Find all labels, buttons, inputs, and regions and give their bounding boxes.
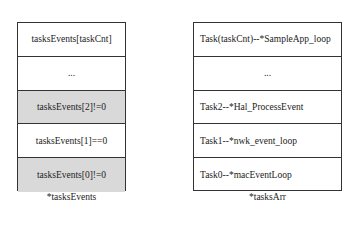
tasks-events-cell-taskcnt: tasksEvents[taskCnt]: [18, 23, 125, 57]
tasks-arr-caption: *tasksArr: [193, 192, 342, 202]
tasks-events-cell-1: tasksEvents[1]==0: [18, 124, 125, 158]
tasks-arr-cell-ellipsis: ...: [194, 57, 341, 91]
tasks-arr-cell-1: Task1--*nwk_event_loop: [194, 124, 341, 158]
tasks-arr-cell-taskcnt: Task(taskCnt)--*SampleApp_loop: [194, 23, 341, 57]
tasks-arr-array: Task(taskCnt)--*SampleApp_loop ... Task2…: [193, 22, 342, 191]
tasks-arr-cell-2: Task2--*Hal_ProcessEvent: [194, 91, 341, 125]
tasks-events-cell-2: tasksEvents[2]!=0: [18, 91, 125, 125]
tasks-events-cell-ellipsis: ...: [18, 57, 125, 91]
tasks-arr-cell-0: Task0--*macEventLoop: [194, 158, 341, 192]
tasks-events-array: tasksEvents[taskCnt] ... tasksEvents[2]!…: [17, 22, 126, 191]
tasks-events-cell-0: tasksEvents[0]!=0: [18, 158, 125, 192]
tasks-events-caption: *tasksEvents: [17, 192, 126, 202]
